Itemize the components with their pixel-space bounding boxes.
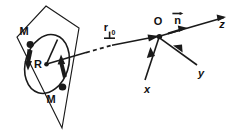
label-mass-bottom: M <box>46 93 55 105</box>
mass-marker-bottom <box>59 84 67 91</box>
label-mass-top: M <box>19 25 28 37</box>
label-axis-z: z <box>218 18 225 30</box>
axis-y <box>160 38 198 65</box>
origin-dot <box>157 34 163 39</box>
loop-arrow-right <box>59 62 66 78</box>
axis-x <box>145 38 159 81</box>
label-axis-x: x <box>143 83 151 95</box>
label-r0-base: r <box>104 21 109 33</box>
label-r0-subscript: 0 <box>112 29 116 36</box>
mass-marker-top <box>27 41 34 48</box>
diagram-canvas: M M R r 0 O n z x y <box>0 0 240 133</box>
origin-marker <box>157 34 163 39</box>
position-vector-r0 <box>47 34 160 64</box>
r0-segment-dashed <box>86 45 112 52</box>
axis-y-line <box>160 38 198 65</box>
physics-diagram-svg: M M R r 0 O n z x y <box>0 0 240 133</box>
label-radius: R <box>34 58 42 70</box>
radius-line <box>47 40 58 65</box>
label-normal-vector: n <box>174 14 181 26</box>
label-origin: O <box>154 15 163 27</box>
axis-x-line <box>145 38 159 81</box>
r0-segment-near-loop <box>47 53 86 64</box>
label-axis-y: y <box>197 67 205 79</box>
